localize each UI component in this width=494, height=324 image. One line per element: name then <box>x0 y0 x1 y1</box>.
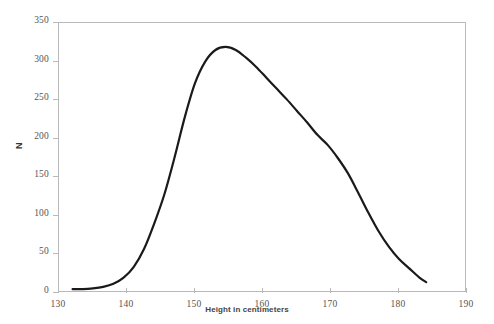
curve-path <box>73 47 427 289</box>
x-axis-tick-mark <box>398 288 399 293</box>
y-axis-tick-label: 150 <box>34 169 49 179</box>
y-axis-tick-label: 300 <box>34 54 49 64</box>
x-axis-tick-mark <box>126 288 127 293</box>
y-axis-tick-label: 0 <box>44 285 49 295</box>
x-axis-tick-mark <box>330 288 331 293</box>
chart-figure: N 350300250200150100500 1301401501601701… <box>0 0 494 324</box>
y-axis-tick-label: 350 <box>34 15 49 25</box>
distribution-curve <box>59 23 467 293</box>
x-axis-tick-mark <box>58 288 59 293</box>
x-axis-tick-mark <box>466 288 467 293</box>
x-axis-title: Height in centimeters <box>0 305 494 314</box>
y-axis-tick-label: 100 <box>34 208 49 218</box>
x-axis-tick-mark <box>262 288 263 293</box>
x-axis-tick-mark <box>194 288 195 293</box>
y-axis-tick-label: 250 <box>34 92 49 102</box>
y-axis-title: N <box>14 143 24 150</box>
plot-area <box>58 22 466 292</box>
y-axis-tick-label: 50 <box>39 246 49 256</box>
y-axis-tick-label: 200 <box>34 131 49 141</box>
